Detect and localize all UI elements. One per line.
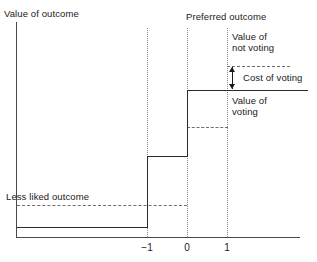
step-segment-high bbox=[187, 90, 308, 91]
cost-of-voting-label: Cost of voting bbox=[243, 72, 303, 83]
y-axis-label: Value of outcome bbox=[4, 8, 79, 19]
value-of-voting-label: Value of voting bbox=[232, 95, 296, 117]
gridline-x-1 bbox=[227, 28, 228, 237]
value-of-not-voting-line2: not voting bbox=[232, 42, 274, 53]
preferred-outcome-label: Preferred outcome bbox=[186, 11, 266, 22]
x-tick-minus-1: −1 bbox=[135, 242, 159, 253]
x-tick-1: 1 bbox=[215, 242, 239, 253]
value-of-voting-line1: Value of bbox=[232, 95, 267, 106]
arrow-head-down bbox=[229, 84, 235, 89]
reference-line-intermediate bbox=[187, 127, 228, 128]
chart-figure: Value of outcome Preferred outcome Value… bbox=[0, 0, 317, 262]
step-segment-mid bbox=[147, 156, 188, 157]
step-segment-low bbox=[17, 227, 148, 228]
value-of-not-voting-line1: Value of bbox=[232, 31, 267, 42]
x-axis-line bbox=[16, 237, 300, 238]
arrow-head-up bbox=[229, 67, 235, 72]
reference-line-less-liked-outcome bbox=[17, 205, 187, 206]
x-tick-0: 0 bbox=[175, 242, 199, 253]
cost-of-voting-arrow bbox=[229, 67, 237, 89]
step-riser-at-0 bbox=[187, 90, 188, 157]
value-of-not-voting-label: Value of not voting bbox=[232, 31, 296, 53]
step-riser-at-minus-1 bbox=[147, 156, 148, 228]
value-of-voting-line2: voting bbox=[232, 106, 258, 117]
less-liked-outcome-label: Less liked outcome bbox=[6, 191, 89, 202]
